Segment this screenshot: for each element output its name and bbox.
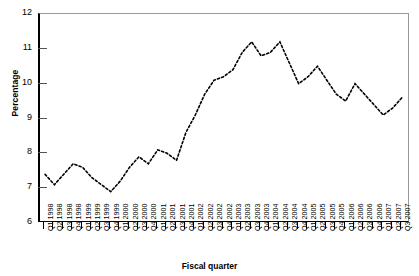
x-tick-label: Q1 1999 bbox=[84, 203, 93, 231]
x-tick-label: Q3 2007 bbox=[403, 203, 412, 231]
x-tick-label: Q4 2005 bbox=[337, 203, 346, 231]
x-tick-label: Q1 2001 bbox=[159, 203, 168, 231]
x-tick-label: Q1 2005 bbox=[309, 203, 318, 231]
x-tick-label: Q2 2004 bbox=[281, 203, 290, 231]
x-tick-mark bbox=[43, 222, 44, 229]
y-tick-label: 6 bbox=[6, 217, 32, 226]
x-tick-label: Q3 2002 bbox=[215, 203, 224, 231]
x-tick-label: Q2 2003 bbox=[243, 203, 252, 231]
x-tick-label: Q2 2002 bbox=[206, 203, 215, 231]
chart-container: Percentage 6789101112 Q1 1998Q2 1998Q3 1… bbox=[0, 0, 419, 276]
x-tick-label: Q4 2000 bbox=[149, 203, 158, 231]
y-axis-tick-labels: 6789101112 bbox=[6, 0, 32, 276]
y-tick-mark bbox=[38, 118, 47, 119]
x-tick-label: Q3 2000 bbox=[140, 203, 149, 231]
x-tick-label: Q1 2002 bbox=[196, 203, 205, 231]
x-tick-label: Q3 1999 bbox=[102, 203, 111, 231]
y-tick-label: 9 bbox=[6, 113, 32, 122]
x-tick-label: Q2 2001 bbox=[168, 203, 177, 231]
x-tick-label: Q1 2000 bbox=[121, 203, 130, 231]
x-tick-label: Q2 1999 bbox=[93, 203, 102, 231]
x-tick-label: Q2 2006 bbox=[356, 203, 365, 231]
x-axis-title: Fiscal quarter bbox=[0, 261, 419, 271]
y-tick-label: 11 bbox=[6, 43, 32, 52]
y-tick-mark bbox=[38, 83, 47, 84]
y-tick-mark bbox=[38, 152, 47, 153]
x-tick-label: Q4 1999 bbox=[112, 203, 121, 231]
x-tick-label: Q2 2007 bbox=[394, 203, 403, 231]
y-tick-label: 10 bbox=[6, 78, 32, 87]
series-polyline bbox=[45, 42, 402, 192]
y-tick-label: 8 bbox=[6, 147, 32, 156]
x-tick-label: Q1 2003 bbox=[234, 203, 243, 231]
data-series-line bbox=[40, 14, 411, 223]
x-tick-label: Q3 2003 bbox=[253, 203, 262, 231]
x-tick-label: Q3 1998 bbox=[65, 203, 74, 231]
x-tick-label: Q3 2006 bbox=[365, 203, 374, 231]
x-tick-label: Q1 2007 bbox=[384, 203, 393, 231]
x-tick-label: Q4 2004 bbox=[300, 203, 309, 231]
x-tick-label: Q2 2000 bbox=[131, 203, 140, 231]
x-tick-label: Q1 2006 bbox=[347, 203, 356, 231]
x-tick-label: Q4 2001 bbox=[187, 203, 196, 231]
x-tick-label: Q2 2005 bbox=[318, 203, 327, 231]
x-tick-label: Q2 1998 bbox=[55, 203, 64, 231]
plot-area bbox=[38, 13, 409, 222]
x-tick-label: Q4 2006 bbox=[375, 203, 384, 231]
x-tick-label: Q1 2004 bbox=[271, 203, 280, 231]
y-tick-label: 12 bbox=[6, 8, 32, 17]
y-tick-label: 7 bbox=[6, 182, 32, 191]
y-tick-mark bbox=[38, 187, 47, 188]
x-tick-label: Q4 2003 bbox=[262, 203, 271, 231]
x-tick-label: Q3 2004 bbox=[290, 203, 299, 231]
x-tick-label: Q4 1998 bbox=[74, 203, 83, 231]
x-tick-label: Q3 2001 bbox=[178, 203, 187, 231]
y-tick-mark bbox=[38, 48, 47, 49]
x-tick-label: Q3 2005 bbox=[328, 203, 337, 231]
x-tick-label: Q4 2002 bbox=[225, 203, 234, 231]
x-tick-label: Q1 1998 bbox=[46, 203, 55, 231]
